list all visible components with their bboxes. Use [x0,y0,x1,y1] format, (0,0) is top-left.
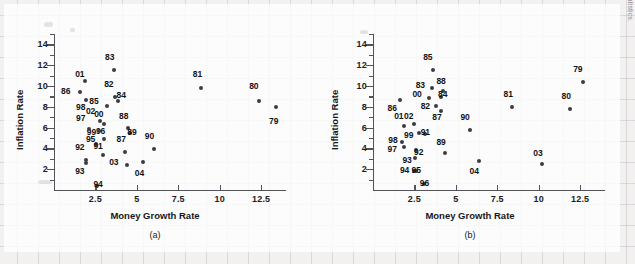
data-point[interactable] [398,98,402,102]
y-axis-tick [369,55,373,56]
data-point[interactable] [568,107,572,111]
y-axis-tick [369,117,373,118]
y-axis-tick [366,107,373,108]
data-point-label: 99 [404,130,413,140]
y-axis-tick [366,65,373,66]
data-point-label: 82 [421,101,430,111]
y-axis-tick-label: 6 [347,123,367,133]
data-point-label: 94 [93,179,102,189]
data-point-label: 88 [436,76,445,86]
data-point[interactable] [98,119,102,123]
y-axis-tick [47,65,54,66]
x-axis-line [373,190,605,191]
data-point[interactable] [434,104,438,108]
data-point-label: 95 [412,165,421,175]
data-point[interactable] [274,105,278,109]
data-point-label: 87 [432,112,441,122]
data-point-label: 03 [109,157,118,167]
y-axis-tick [369,180,373,181]
y-axis-tick [47,107,54,108]
x-axis-tick [261,185,262,190]
data-point[interactable] [105,104,109,108]
y-axis-tick [50,117,54,118]
data-point[interactable] [141,160,145,164]
y-axis-line [373,34,374,191]
y-axis-tick [369,96,373,97]
data-point[interactable] [413,156,417,160]
x-axis-tick-label: 2.5 [81,194,109,204]
data-point-label: 04 [135,168,144,178]
data-point[interactable] [540,162,544,166]
data-point-label: 91 [421,127,430,137]
x-axis-tick-label: 7.5 [164,194,192,204]
data-point[interactable] [101,153,105,157]
data-point[interactable] [443,151,447,155]
data-point[interactable] [257,99,261,103]
data-point[interactable] [581,80,585,84]
data-point[interactable] [402,124,406,128]
x-axis-title-b: Money Growth Rate [345,210,595,221]
data-point[interactable] [402,145,406,149]
data-point[interactable] [123,150,127,154]
data-point[interactable] [97,129,101,133]
data-point[interactable] [510,105,514,109]
y-axis-tick [369,159,373,160]
y-axis-tick-label: 12 [347,60,367,70]
data-point[interactable] [84,161,88,165]
y-axis-tick-label: 2 [28,164,48,174]
data-point-label: 81 [504,89,513,99]
y-axis-tick-label: 8 [347,102,367,112]
data-point-label: 93 [402,155,411,165]
data-point[interactable] [199,86,203,90]
data-point-label: 94 [400,165,409,175]
y-axis-tick [366,44,373,45]
chart-panel-b: 2.557.51012.5246810121479808185888384008… [315,0,635,264]
y-axis-tick-label: 14 [347,39,367,49]
y-axis-tick [50,138,54,139]
y-axis-tick [50,34,54,35]
data-point[interactable] [431,68,435,72]
data-point[interactable] [87,127,91,131]
data-point-label: 97 [76,113,85,123]
data-point[interactable] [112,68,116,72]
y-axis-title-b: Inflation Rate [329,90,340,150]
x-axis-tick-label: 12.5 [566,194,594,204]
data-point-label: 92 [75,142,84,152]
data-point-label: 93 [75,166,84,176]
y-axis-tick-label: 2 [347,164,367,174]
x-axis-tick-label: 10 [206,194,234,204]
data-point-label: 79 [573,64,582,74]
x-axis-tick [220,185,221,190]
data-point[interactable] [83,79,87,83]
data-point[interactable] [78,90,82,94]
data-point[interactable] [400,140,404,144]
x-axis-tick [137,185,138,190]
y-axis-tick [366,148,373,149]
x-axis-tick-label: 5 [123,194,151,204]
x-axis-tick [456,185,457,190]
data-point-label: 90 [460,112,469,122]
data-point[interactable] [152,147,156,151]
y-axis-tick [50,55,54,56]
y-axis-tick-label: 8 [28,102,48,112]
y-axis-tick-label: 14 [28,39,48,49]
y-axis-tick [47,86,54,87]
y-axis-tick [47,169,54,170]
data-point[interactable] [477,159,481,163]
y-axis-tick [50,96,54,97]
x-axis-line [54,190,286,191]
data-point[interactable] [468,128,472,132]
data-point[interactable] [412,122,416,126]
data-point-label: 85 [423,52,432,62]
data-point-label: 91 [93,141,102,151]
y-axis-line [54,34,55,191]
data-point-label: 04 [470,166,479,176]
x-axis-tick-label: 5 [442,194,470,204]
data-point[interactable] [430,86,434,90]
chart-panel-a: 2.557.51012.5246810121479808182838485888… [0,0,318,264]
y-axis-tick [366,169,373,170]
y-axis-tick [50,180,54,181]
x-axis-tick-label: 10 [525,194,553,204]
data-point-label: 79 [269,116,278,126]
data-point[interactable] [125,163,129,167]
